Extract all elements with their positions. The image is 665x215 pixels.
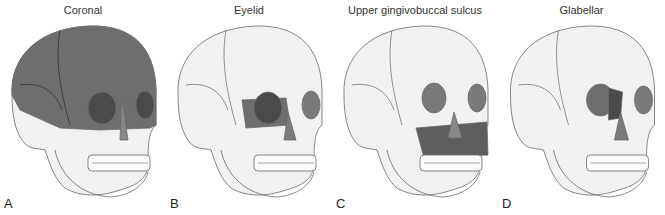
skull-illustration-glabellar	[498, 0, 665, 215]
panel-a-coronal: Coronal A	[0, 0, 166, 215]
panel-title: Glabellar	[498, 4, 665, 16]
skull-illustration-gingivobuccal	[332, 0, 498, 215]
panel-letter: D	[502, 196, 511, 211]
panel-letter: C	[336, 196, 345, 211]
panel-b-eyelid: Eyelid B	[166, 0, 332, 215]
panel-letter: A	[4, 196, 13, 211]
skull-illustration-eyelid	[166, 0, 332, 215]
panel-title: Upper gingivobuccal sulcus	[332, 4, 498, 16]
panel-c-gingivobuccal: Upper gingivobuccal sulcus C	[332, 0, 498, 215]
panel-title: Eyelid	[166, 4, 332, 16]
panel-d-glabellar: Glabellar D	[498, 0, 665, 215]
panel-letter: B	[170, 196, 179, 211]
skull-approaches-figure: Coronal A Eyelid B	[0, 0, 665, 215]
panel-title: Coronal	[0, 4, 166, 16]
skull-illustration-coronal	[0, 0, 166, 215]
